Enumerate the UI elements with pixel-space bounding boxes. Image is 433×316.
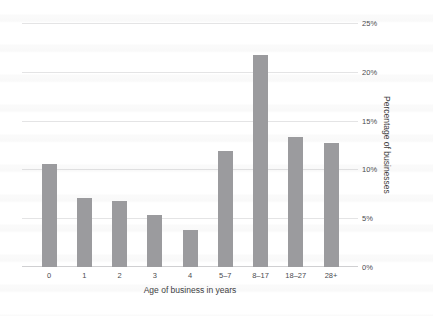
bar-slot (173, 23, 207, 267)
plot-area (22, 23, 358, 267)
bar (253, 55, 268, 267)
x-tick-label: 0 (32, 271, 66, 280)
bar-slot (279, 23, 313, 267)
bar (218, 151, 233, 267)
bar-slot (244, 23, 278, 267)
x-tick-label: 8–17 (244, 271, 278, 280)
bar (42, 164, 57, 267)
x-tick-label: 2 (103, 271, 137, 280)
y-tick-label-20: 20% (362, 67, 377, 76)
bar-chart: 25% 20% 15% 10% 5% 0% 0 1 2 3 4 5–7 8–17… (0, 0, 433, 316)
y-tick-label-25: 25% (362, 19, 377, 28)
y-tick-label-10: 10% (362, 165, 377, 174)
bar (147, 215, 162, 267)
x-tick-label: 18–27 (279, 271, 313, 280)
x-tick-label: 5–7 (208, 271, 242, 280)
y-tick-label-15: 15% (362, 116, 377, 125)
bar-slot (314, 23, 348, 267)
x-axis-tick-labels: 0 1 2 3 4 5–7 8–17 18–27 28+ (22, 271, 358, 280)
bar (288, 137, 303, 267)
bar-slot (208, 23, 242, 267)
bar-slot (67, 23, 101, 267)
y-tick-label-0: 0% (362, 263, 373, 272)
bar-slot (32, 23, 66, 267)
x-tick-label: 1 (67, 271, 101, 280)
bar-slot (138, 23, 172, 267)
bar (77, 198, 92, 267)
y-axis-title: Percentage of businesses (382, 96, 392, 194)
x-tick-label: 3 (138, 271, 172, 280)
bar-series (22, 23, 358, 267)
bar (183, 230, 198, 267)
bar (324, 143, 339, 267)
bar (112, 201, 127, 267)
bar-slot (103, 23, 137, 267)
x-axis-title: Age of business in years (22, 285, 358, 295)
y-tick-label-5: 5% (362, 214, 373, 223)
x-tick-label: 28+ (314, 271, 348, 280)
x-tick-label: 4 (173, 271, 207, 280)
